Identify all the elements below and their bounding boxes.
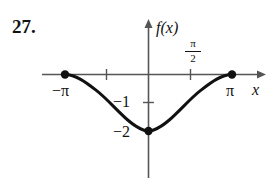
graph-figure xyxy=(0,0,277,182)
y-tick-label-minus-two: −2 xyxy=(113,124,130,140)
y-axis-label: f(x) xyxy=(156,20,178,36)
x-tick-label-neg-pi: −π xyxy=(52,83,69,99)
y-axis-arrow-icon xyxy=(145,19,153,28)
x-axis-arrow-icon xyxy=(257,71,266,79)
pi-over-two-denominator: 2 xyxy=(185,53,201,65)
x-axis-label: x xyxy=(252,82,259,98)
point-right-endpoint xyxy=(228,70,236,78)
point-left-endpoint xyxy=(61,70,69,78)
x-tick-label-pi: π xyxy=(226,83,234,99)
x-tick-label-pi-over-two: π 2 xyxy=(185,38,201,64)
figure-page: 27. f(x) x −π π −1 −2 π 2 xyxy=(0,0,277,182)
pi-over-two-numerator: π xyxy=(185,38,201,50)
y-tick-label-minus-one: −1 xyxy=(113,94,130,110)
point-minimum xyxy=(144,127,152,135)
